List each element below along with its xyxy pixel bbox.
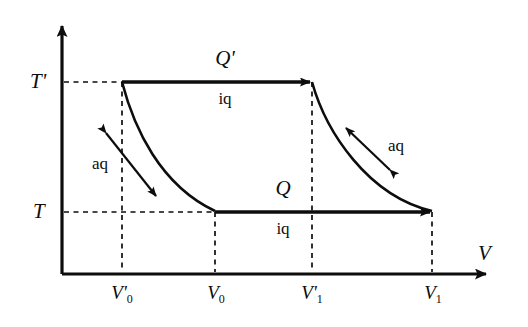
process-label-isothermal-upper: iq [218, 90, 231, 107]
process-label-isothermal-lower: iq [276, 220, 289, 237]
tick-base: V [424, 282, 436, 303]
process-label-adiabatic-right: aq [388, 137, 404, 154]
heat-label-lower: Q [275, 178, 290, 199]
curve-right-adiabat [312, 82, 432, 211]
y-tick-label-t-prime: T' [30, 71, 46, 92]
tick-base: V [111, 282, 123, 303]
heat-label-upper: Q' [215, 48, 235, 69]
curve-left-adiabat [122, 82, 215, 211]
arrow-adiabat-right [346, 128, 390, 170]
tick-base: V [301, 282, 313, 303]
x-tick-label-v0: V0 [207, 283, 225, 302]
thermodynamic-cycle-svg [0, 0, 528, 327]
arrow-adiabat-left [106, 133, 156, 196]
y-tick-label-t: T [33, 201, 45, 222]
tick-subscript: 1 [436, 292, 442, 306]
process-label-adiabatic-left: aq [92, 155, 108, 172]
x-tick-label-v0-prime: V'0 [111, 283, 133, 302]
x-tick-label-v1-prime: V'1 [301, 283, 323, 302]
tick-subscript: 0 [127, 292, 133, 306]
tick-base: V [207, 282, 219, 303]
tick-subscript: 0 [219, 292, 225, 306]
x-axis-label-v: V [478, 243, 491, 264]
x-tick-label-v1: V1 [424, 283, 442, 302]
figure-canvas: T' T V V'0 V0 V'1 V1 Q' Q iq iq aq aq [0, 0, 528, 327]
tick-subscript: 1 [317, 292, 323, 306]
